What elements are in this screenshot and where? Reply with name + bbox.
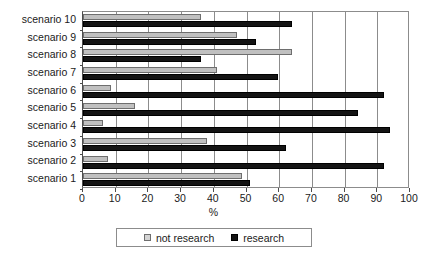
x-axis-tick-label: 60 <box>272 192 284 204</box>
y-axis-category-label: scenario 8 <box>28 49 76 60</box>
plot-area <box>82 11 409 188</box>
y-axis-category-label: scenario 10 <box>22 14 76 25</box>
bar-research <box>83 163 384 169</box>
x-axis-tick-label: 10 <box>109 192 121 204</box>
x-axis-tick-label: 0 <box>79 192 85 204</box>
y-axis-category-label: scenario 4 <box>28 120 76 131</box>
x-axis-tick-label: 100 <box>400 192 418 204</box>
light-gray-square-icon <box>144 234 151 241</box>
bar-research <box>83 74 278 80</box>
y-axis-category-label: scenario 7 <box>28 67 76 78</box>
bar-not-research <box>83 49 292 55</box>
bar-group <box>83 12 408 30</box>
black-square-icon <box>231 234 238 241</box>
y-axis-category-label: scenario 3 <box>28 138 76 149</box>
bar-research <box>83 127 390 133</box>
bar-group <box>83 83 408 101</box>
x-axis-tick-label: 30 <box>174 192 186 204</box>
y-axis-category-label: scenario 1 <box>28 173 76 184</box>
bar-research <box>83 145 286 151</box>
bar-research <box>83 39 256 45</box>
x-axis-tick-label: 80 <box>338 192 350 204</box>
bar-not-research <box>83 138 207 144</box>
legend-label: not research <box>156 232 214 244</box>
bar-not-research <box>83 103 135 109</box>
y-axis-category-label: scenario 5 <box>28 102 76 113</box>
x-axis-tick-label: 40 <box>207 192 219 204</box>
legend-entry: research <box>231 232 284 244</box>
bar-not-research <box>83 156 108 162</box>
legend-entry: not research <box>144 232 214 244</box>
legend-label: research <box>243 232 284 244</box>
chart-legend: not researchresearch <box>116 228 312 247</box>
bar-research <box>83 110 358 116</box>
bar-group <box>83 65 408 83</box>
bar-research <box>83 180 250 186</box>
bar-group <box>83 136 408 154</box>
bar-group <box>83 47 408 65</box>
bar-group <box>83 154 408 172</box>
bar-not-research <box>83 67 217 73</box>
bar-not-research <box>83 32 237 38</box>
y-axis-category-labels: scenario 10scenario 9scenario 8scenario … <box>0 11 80 188</box>
bar-group <box>83 171 408 189</box>
bar-group <box>83 101 408 119</box>
x-axis-tick-label: 50 <box>240 192 252 204</box>
bar-research <box>83 92 384 98</box>
bar-group <box>83 118 408 136</box>
bar-group <box>83 30 408 48</box>
x-axis-title: % <box>0 206 427 218</box>
x-axis-tick-label: 90 <box>370 192 382 204</box>
bar-research <box>83 56 201 62</box>
x-axis-tick-label: 70 <box>305 192 317 204</box>
bar-not-research <box>83 120 103 126</box>
bar-not-research <box>83 85 111 91</box>
horizontal-bar-chart: scenario 10scenario 9scenario 8scenario … <box>0 0 427 262</box>
bar-not-research <box>83 173 242 179</box>
y-axis-category-label: scenario 9 <box>28 32 76 43</box>
y-axis-category-label: scenario 2 <box>28 155 76 166</box>
bar-not-research <box>83 14 201 20</box>
bar-research <box>83 21 292 27</box>
x-axis-tick-labels: 0102030405060708090100 <box>82 192 409 206</box>
y-axis-category-label: scenario 6 <box>28 85 76 96</box>
x-axis-tick-label: 20 <box>142 192 154 204</box>
